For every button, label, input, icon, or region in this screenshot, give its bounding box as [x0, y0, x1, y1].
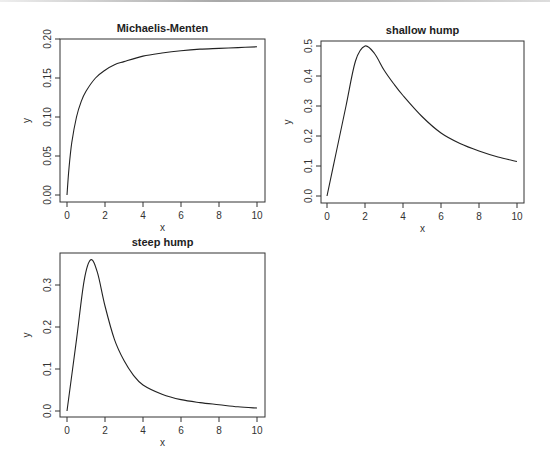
x-axis-label: x	[420, 223, 425, 234]
chart-panel-1: Michaelis-Menten0246810x0.000.050.100.15…	[21, 22, 265, 233]
data-curve	[327, 46, 517, 196]
y-tick-label: 0.05	[42, 146, 53, 166]
y-axis-label: y	[21, 118, 32, 123]
y-tick-label: 0.00	[42, 185, 53, 205]
x-tick-label: 2	[102, 210, 108, 221]
x-tick-label: 8	[476, 211, 482, 222]
x-tick-label: 10	[251, 425, 263, 436]
x-tick-label: 6	[178, 425, 184, 436]
y-tick-label: 0.1	[42, 362, 53, 376]
y-axis-label: y	[21, 333, 32, 338]
x-tick-label: 0	[64, 210, 70, 221]
x-tick-label: 2	[362, 211, 368, 222]
chart-title: steep hump	[132, 236, 194, 248]
y-tick-label: 0.3	[42, 278, 53, 292]
plot-frame	[321, 41, 524, 203]
x-tick-label: 4	[140, 210, 146, 221]
data-curve	[67, 260, 257, 411]
chart-panel-3: steep hump0246810x0.00.10.20.3y	[21, 236, 265, 448]
chart-title: Michaelis-Menten	[117, 22, 209, 34]
y-tick-label: 0.15	[42, 68, 53, 88]
x-tick-label: 4	[140, 425, 146, 436]
y-tick-label: 0.1	[303, 159, 314, 173]
x-tick-label: 8	[216, 425, 222, 436]
y-tick-label: 0.4	[303, 69, 314, 83]
x-tick-label: 0	[324, 211, 330, 222]
x-axis-label: x	[160, 222, 165, 233]
y-axis-label: y	[282, 120, 293, 125]
x-tick-label: 4	[400, 211, 406, 222]
y-tick-label: 0.0	[303, 189, 314, 203]
data-curve	[67, 47, 257, 195]
x-tick-label: 8	[216, 210, 222, 221]
chart-title: shallow hump	[386, 24, 460, 36]
chart-panel-2: shallow hump0246810x0.00.10.20.30.40.5y	[282, 24, 524, 234]
y-tick-label: 0.10	[42, 107, 53, 127]
plot-frame	[60, 39, 265, 202]
y-tick-label: 0.20	[42, 29, 53, 49]
x-tick-label: 6	[178, 210, 184, 221]
x-tick-label: 10	[251, 210, 263, 221]
x-axis-label: x	[160, 437, 165, 448]
y-tick-label: 0.5	[303, 39, 314, 53]
x-tick-label: 0	[64, 425, 70, 436]
x-tick-label: 2	[102, 425, 108, 436]
plot-canvas: Michaelis-Menten0246810x0.000.050.100.15…	[0, 0, 550, 472]
y-tick-label: 0.0	[42, 404, 53, 418]
plot-frame	[60, 253, 265, 417]
x-tick-label: 6	[438, 211, 444, 222]
y-tick-label: 0.2	[303, 129, 314, 143]
x-tick-label: 10	[511, 211, 523, 222]
y-tick-label: 0.3	[303, 99, 314, 113]
y-tick-label: 0.2	[42, 320, 53, 334]
